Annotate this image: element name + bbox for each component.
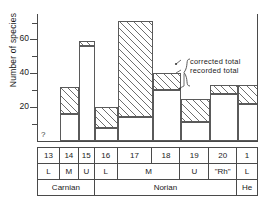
y-tick-50: [32, 56, 37, 57]
species-diversity-chart: Number of species 604020 ? corrected tot…: [0, 0, 265, 200]
corrected-total-segment-16: [95, 107, 118, 127]
bar-zone-1: [238, 14, 258, 141]
corrected-total-segment-1: [238, 85, 258, 104]
zone-cell-20: 20: [209, 148, 237, 163]
zone-cell-14: 14: [60, 148, 79, 163]
recorded-total-segment-14: [60, 114, 79, 141]
zone-cell-17: 17: [118, 148, 153, 163]
substage-cell-L: L: [237, 164, 257, 179]
y-tick-60: [30, 39, 37, 40]
recorded-total-segment-20: [210, 94, 238, 141]
y-tick-70: [32, 23, 37, 24]
bar-zone-17: [118, 14, 153, 141]
y-axis-tick-labels: 604020: [0, 0, 29, 200]
recorded-total-label: recorded total: [190, 66, 241, 75]
zone-cell-13: 13: [38, 148, 60, 163]
plot-area: ?: [38, 14, 258, 141]
corrected-total-segment-20: [210, 85, 238, 94]
corrected-total-segment-17: [118, 21, 153, 118]
substage-cell-U: U: [180, 164, 209, 179]
recorded-total-segment-15: [79, 46, 95, 141]
stage-cell-He: He: [237, 180, 257, 195]
corrected-total-segment-19: [181, 99, 210, 123]
substage-cell-M: M: [118, 164, 181, 179]
y-tick-label-40: 40: [7, 67, 29, 77]
y-tick-40: [30, 73, 37, 74]
bar-zone-13: ?: [38, 14, 60, 141]
unknown-data-marker: ?: [41, 130, 45, 139]
recorded-total-segment-18: [153, 90, 181, 141]
plot-right-border: [257, 14, 258, 141]
recorded-total-segment-19: [181, 122, 210, 141]
zone-cell-16: 16: [95, 148, 118, 163]
substage-cell-Rh: "Rh": [209, 164, 237, 179]
bar-zone-20: [210, 14, 238, 141]
substage-cell-U: U: [79, 164, 95, 179]
zone-row: 13141516171819201: [37, 147, 258, 163]
recorded-total-segment-1: [238, 104, 258, 141]
y-tick-label-60: 60: [7, 33, 29, 43]
zone-cell-1: 1: [237, 148, 257, 163]
y-tick-label-20: 20: [7, 101, 29, 111]
corrected-total-label: corrected total: [190, 57, 241, 66]
substage-cell-L: L: [95, 164, 118, 179]
bar-zone-15: [79, 14, 95, 141]
y-tick-20: [30, 107, 37, 108]
recorded-total-segment-16: [95, 128, 118, 142]
zone-cell-15: 15: [79, 148, 95, 163]
corrected-total-segment-15: [79, 41, 95, 46]
y-tick-30: [32, 90, 37, 91]
stage-cell-Norian: Norian: [95, 180, 237, 195]
bar-zone-14: [60, 14, 79, 141]
recorded-total-segment-17: [118, 117, 153, 141]
corrected-total-segment-18: [153, 73, 181, 90]
stratigraphic-table: 13141516171819201 LMULMU"Rh"L CarnianNor…: [37, 147, 258, 192]
stage-row: CarnianNorianHe: [37, 179, 258, 196]
bar-zone-18: [153, 14, 181, 141]
bar-zone-16: [95, 14, 118, 141]
x-axis-baseline: [37, 141, 258, 142]
stage-cell-Carnian: Carnian: [38, 180, 95, 195]
substage-cell-L: L: [38, 164, 60, 179]
annotation-labels: corrected total recorded total: [190, 57, 241, 75]
y-tick-10: [32, 124, 37, 125]
zone-cell-18: 18: [152, 148, 180, 163]
corrected-total-segment-14: [60, 87, 79, 114]
zone-cell-19: 19: [180, 148, 209, 163]
substage-cell-M: M: [60, 164, 79, 179]
substage-row: LMULMU"Rh"L: [37, 163, 258, 179]
